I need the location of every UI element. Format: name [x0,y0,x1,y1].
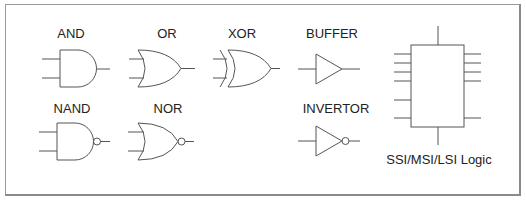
ic-block-icon [394,26,481,145]
invertor-gate-icon [298,126,360,156]
or-gate-icon [129,50,195,87]
and-gate-icon [42,50,110,87]
buffer-gate-icon [298,54,360,84]
nor-gate-icon [128,123,194,160]
xor-gate-icon [213,50,280,87]
nand-gate-icon [39,123,110,160]
